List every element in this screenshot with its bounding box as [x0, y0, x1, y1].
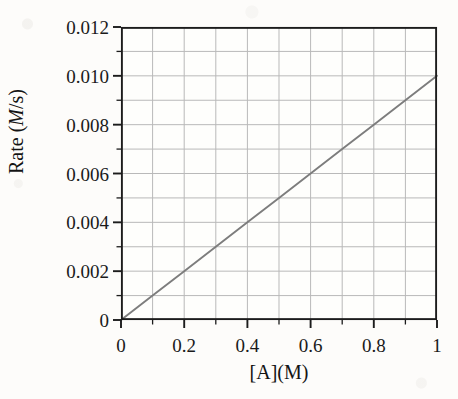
y-axis-title-unit-italic: M	[5, 109, 27, 126]
y-tick-label: 0.012	[66, 18, 109, 37]
plot-frame	[121, 27, 437, 320]
y-tick-label: 0.002	[66, 262, 109, 281]
x-axis-title: [A](M)	[121, 362, 437, 382]
x-tick-label: 0.4	[236, 336, 260, 355]
x-tick-label: 1	[432, 336, 442, 355]
x-tick-label: 0.2	[172, 336, 196, 355]
y-tick-label: 0.008	[66, 115, 109, 134]
y-tick-label: 0.004	[66, 213, 109, 232]
y-tick-label: 0.010	[66, 66, 109, 85]
x-tick-label: 0.6	[299, 336, 323, 355]
y-axis-title: Rate (M/s)	[6, 89, 26, 174]
y-tick-label: 0.006	[66, 164, 109, 183]
x-tick-label: 0.8	[362, 336, 386, 355]
y-axis-title-prefix: Rate (	[5, 126, 27, 174]
x-tick-label: 0	[116, 336, 126, 355]
plot-area	[121, 27, 437, 320]
y-axis-title-suffix: /s)	[5, 89, 27, 109]
figure-container: Rate (M/s) [A](M) 00.0020.0040.0060.0080…	[0, 0, 458, 399]
